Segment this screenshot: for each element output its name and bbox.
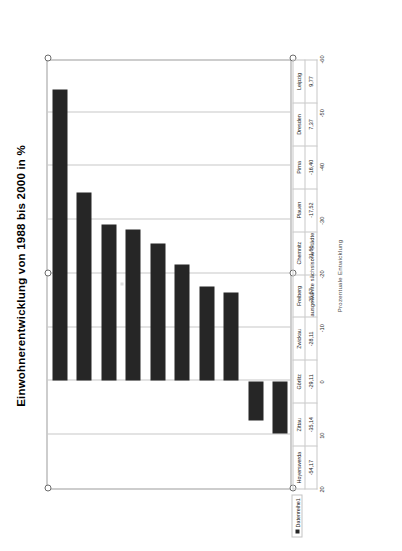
value-tick-label: 10: [318, 432, 324, 438]
legend-label: Datenreihe1: [294, 498, 300, 527]
bar-freiberg[interactable]: [150, 243, 165, 380]
category-cell: Hoyerswerda: [293, 446, 305, 489]
gridline: [47, 111, 290, 112]
value-axis-ticks: 20100-10-20-30-40-50-60: [318, 59, 330, 489]
value-tick-label: 20: [318, 486, 324, 492]
bar-chemnitz[interactable]: [174, 264, 189, 380]
bar-dresden[interactable]: [248, 381, 263, 421]
plot-resize-handle[interactable]: [44, 485, 51, 492]
category-cell: Freiberg: [293, 274, 305, 317]
value-tick-label: -40: [318, 162, 324, 170]
plot-resize-handle[interactable]: [44, 55, 51, 62]
value-tick-label: -30: [318, 216, 324, 224]
gridline: [47, 165, 290, 166]
bar-pirna[interactable]: [223, 292, 238, 380]
bar-grlitz[interactable]: [101, 224, 116, 380]
bar-plauen[interactable]: [199, 286, 214, 380]
table-row-categories: HoyerswerdaZittauGörlitzZwickauFreibergC…: [293, 60, 305, 489]
legend[interactable]: Datenreihe1: [291, 494, 302, 537]
value-tick-label: -10: [318, 324, 324, 332]
category-cell: Chemnitz: [293, 231, 305, 274]
value-tick-label: -20: [318, 270, 324, 278]
category-cell: Plauen: [293, 188, 305, 231]
legend-swatch-icon: [295, 529, 299, 533]
category-cell: Pirna: [293, 145, 305, 188]
chart-title: Einwohnerentwicklung von 1988 bis 2000 i…: [14, 0, 26, 551]
value-tick-label: -60: [318, 55, 324, 63]
value-tick-label: 0: [318, 380, 324, 383]
value-axis-title: Prozentuale Entwicklung: [336, 0, 342, 551]
category-cell: Görlitz: [293, 360, 305, 403]
bar-zwickau[interactable]: [125, 229, 140, 380]
chart-canvas: Einwohnerentwicklung von 1988 bis 2000 i…: [0, 0, 402, 551]
category-axis-title: ausgewählte sächsische Städte: [308, 59, 314, 489]
artifact-speck: [120, 282, 123, 285]
value-tick-label: -50: [318, 109, 324, 117]
bar-leipzig[interactable]: [272, 381, 287, 434]
bar-zittau[interactable]: [76, 192, 91, 381]
category-cell: Zittau: [293, 403, 305, 446]
category-cell: Leipzig: [293, 60, 305, 103]
category-cell: Dresden: [293, 102, 305, 145]
bar-hoyerswerda[interactable]: [52, 89, 67, 380]
plot-resize-handle[interactable]: [44, 270, 51, 277]
plot-area[interactable]: [46, 59, 291, 489]
category-cell: Zwickau: [293, 317, 305, 360]
gridline: [47, 433, 290, 434]
